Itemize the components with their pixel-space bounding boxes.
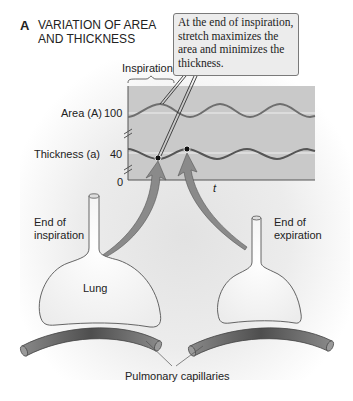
right-lung-label: End of expiration (274, 216, 322, 242)
capillary-left (19, 328, 163, 357)
left-lung-label: End of inspiration (34, 216, 84, 242)
inspiration-label: Inspiration (122, 62, 173, 74)
panel-letter: A (20, 18, 29, 33)
thickness-axis-label: Thickness (a) (8, 148, 100, 160)
area-axis-label: Area (A) (20, 107, 102, 119)
thickness-axis-value: 40 (110, 148, 122, 160)
expiration-point (184, 146, 190, 152)
callout-text: At the end of inspiration, stretch maxim… (178, 16, 293, 69)
graph (124, 86, 315, 180)
panel-title: VARIATION OF AREA AND THICKNESS (38, 18, 178, 46)
origin-label: 0 (117, 176, 123, 188)
lung-right-trachea-opening (252, 216, 261, 220)
area-axis-value: 100 (104, 107, 122, 119)
lung-left-trachea-opening (89, 194, 99, 198)
x-axis-label: t (213, 182, 216, 194)
lung-inner-label: Lung (83, 282, 107, 294)
callout-box: At the end of inspiration, stretch maxim… (173, 13, 299, 76)
capillary-right (187, 328, 335, 357)
inspiration-bracket (128, 76, 174, 83)
capillaries-label: Pulmonary capillaries (125, 370, 230, 382)
